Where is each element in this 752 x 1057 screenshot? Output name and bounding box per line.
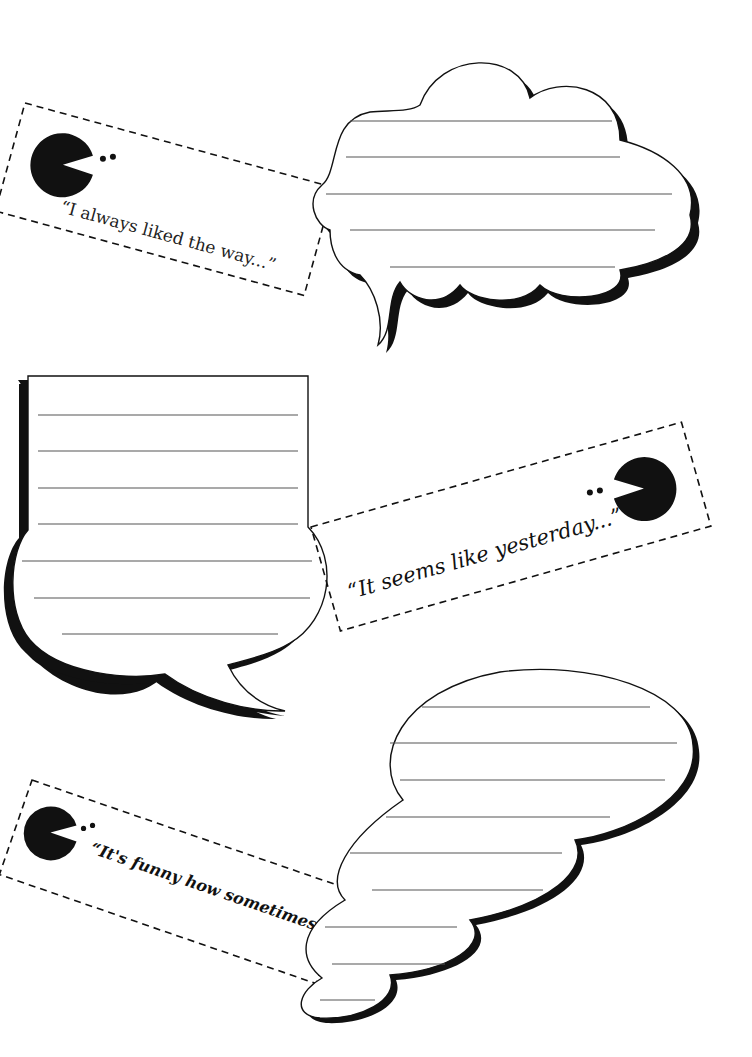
prompt-text-3: “It's funny how sometimes...” bbox=[88, 838, 344, 942]
panel-2: “It seems like yesterday...” bbox=[4, 376, 711, 719]
dashed-cut-border bbox=[0, 103, 334, 295]
prompt-text-1: “I always liked the way...” bbox=[58, 197, 278, 275]
panel-1: “I always liked the way...” bbox=[0, 63, 700, 353]
prompt-tag-3: “It's funny how sometimes...” bbox=[0, 780, 356, 986]
prompt-text-2: “It seems like yesterday...” bbox=[345, 503, 625, 603]
cloud-speech-bubble[interactable] bbox=[313, 63, 699, 353]
dashed-cut-border bbox=[311, 422, 711, 631]
worksheet-page: “I always liked the way...” bbox=[0, 0, 752, 1057]
prompt-tag-2: “It seems like yesterday...” bbox=[311, 422, 711, 631]
pacman-icon bbox=[30, 133, 116, 197]
thought-bubble[interactable] bbox=[301, 669, 699, 1023]
prompt-tag-1: “I always liked the way...” bbox=[0, 103, 334, 295]
pacman-icon bbox=[24, 806, 95, 860]
rounded-speech-bubble[interactable] bbox=[4, 376, 327, 719]
panel-3: “It's funny how sometimes...” bbox=[0, 669, 699, 1023]
